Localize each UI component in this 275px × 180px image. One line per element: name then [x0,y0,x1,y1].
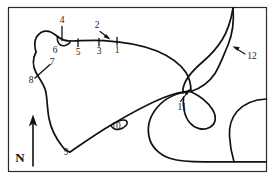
north-arrow-label: N [15,150,25,165]
map-canvas: N 1 2 3 4 5 6 7 8 9 10 11 12 [0,0,275,180]
annotation-label-4: 4 [60,15,65,25]
annotation-label-12: 12 [247,51,257,61]
sketch-map-figure: N 1 2 3 4 5 6 7 8 9 10 11 12 [0,0,275,180]
annotation-markers [35,27,245,102]
cross-tick-7-8 [35,65,50,79]
annotation-label-3: 3 [97,46,102,56]
inner-basin-shore [183,92,215,130]
annotation-label-2: 2 [95,20,100,30]
annotation-label-7: 7 [50,57,55,67]
north-shoreline [35,31,191,91]
annotation-label-9: 9 [64,147,69,157]
coastline-group [33,8,266,162]
north-arrow: N [15,115,37,167]
annotation-label-5: 5 [76,47,81,57]
south-diagonal-shore [70,91,191,152]
annotation-label-11: 11 [177,102,186,112]
right-edge-tail [229,99,266,162]
figure-border [9,8,267,172]
annotation-label-8: 8 [29,75,34,85]
east-lobe-shore [191,8,233,92]
annotation-labels: 1 2 3 4 5 6 7 8 9 10 11 12 [29,15,257,157]
annotation-label-10: 10 [111,121,121,131]
annotation-label-1: 1 [115,45,120,55]
annotation-label-6: 6 [53,45,58,55]
